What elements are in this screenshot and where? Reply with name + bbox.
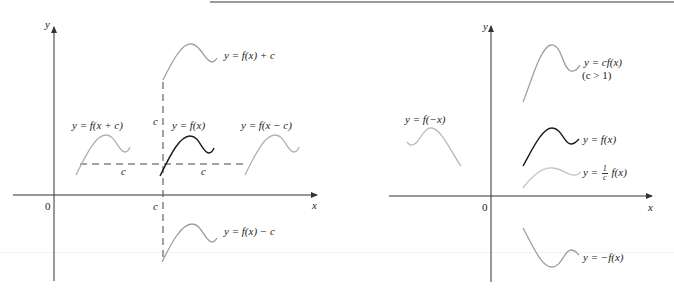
curve-f-x-minus-c	[245, 135, 299, 175]
curve-f-neg-x	[407, 128, 461, 166]
label-c-f: y = cf(x)	[584, 57, 622, 68]
curve-neg-f	[523, 228, 579, 267]
label-c-greater-than-1: (c > 1)	[582, 70, 611, 81]
c-x-axis-tick-label: c	[153, 201, 158, 212]
label-neg-f: y = −f(x)	[583, 252, 624, 263]
label-one-over-c-f: y = 1c f(x)	[583, 165, 627, 182]
curve-f-minus-c	[162, 224, 217, 262]
curve-c-f	[523, 45, 580, 102]
fraction-one-over-c: 1c	[602, 165, 608, 182]
label-one-over-c-suffix: f(x)	[612, 166, 627, 178]
left-y-axis-label: y	[45, 19, 50, 30]
label-f-x-plus-c: y = f(x + c)	[72, 120, 123, 131]
left-panel	[13, 27, 317, 281]
label-f-x-minus-c: y = f(x − c)	[241, 120, 292, 131]
c-vertical-shift-label: c	[153, 116, 158, 127]
label-f-minus-c: y = f(x) − c	[224, 226, 275, 237]
label-f-right: y = f(x)	[583, 134, 616, 145]
transformations-figure	[0, 0, 674, 295]
left-origin-label: 0	[45, 201, 51, 212]
label-f-neg-x: y = f(−x)	[405, 114, 446, 125]
curve-f-plus-c	[163, 44, 217, 80]
right-origin-label: 0	[482, 202, 488, 213]
right-x-axis-label: x	[648, 202, 653, 213]
curve-f-right	[523, 128, 579, 166]
c-left-shift-label: c	[121, 166, 126, 177]
fraction-denominator: c	[602, 174, 608, 182]
label-f-plus-c: y = f(x) + c	[224, 50, 275, 61]
label-f: y = f(x)	[172, 120, 205, 131]
label-one-over-c-prefix: y =	[583, 166, 598, 178]
curve-one-over-c-f	[523, 168, 581, 188]
right-y-axis-label: y	[483, 21, 488, 32]
c-right-shift-label: c	[201, 166, 206, 177]
left-x-axis-label: x	[312, 200, 317, 211]
